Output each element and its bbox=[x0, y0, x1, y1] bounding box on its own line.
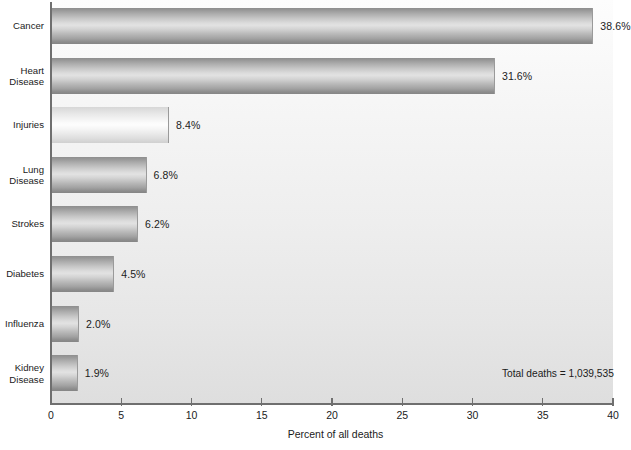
bar-value-label: 1.9% bbox=[85, 367, 109, 379]
x-axis-tick-label: 40 bbox=[607, 409, 619, 421]
x-axis-tick bbox=[402, 398, 403, 406]
bar-row: Influenza2.0% bbox=[0, 306, 631, 342]
category-label: Cancer bbox=[0, 20, 44, 32]
bar bbox=[51, 8, 593, 44]
bar-row: Lung Disease6.8% bbox=[0, 157, 631, 193]
category-label: Injuries bbox=[0, 119, 44, 131]
bar bbox=[51, 306, 79, 342]
x-axis-tick bbox=[191, 398, 192, 406]
bar-row: Heart Disease31.6% bbox=[0, 58, 631, 94]
category-label: Strokes bbox=[0, 219, 44, 231]
bar-row: Strokes6.2% bbox=[0, 206, 631, 242]
bar bbox=[51, 355, 78, 391]
category-label: Kidney Disease bbox=[0, 362, 44, 385]
x-axis-title-text: Percent of all deaths bbox=[288, 428, 384, 440]
category-label: Influenza bbox=[0, 318, 44, 330]
x-axis-tick-label: 0 bbox=[48, 409, 54, 421]
x-axis-tick bbox=[261, 398, 262, 406]
bar-value-label: 2.0% bbox=[86, 318, 110, 330]
bar-value-label: 6.8% bbox=[154, 169, 178, 181]
bar-row: Injuries8.4% bbox=[0, 107, 631, 143]
bar bbox=[51, 58, 495, 94]
x-axis-title: Percent of all deaths bbox=[0, 428, 631, 440]
bar-value-label: 8.4% bbox=[176, 119, 200, 131]
bar-value-label: 4.5% bbox=[121, 268, 145, 280]
y-axis-line bbox=[50, 2, 52, 404]
x-axis-tick-label: 20 bbox=[326, 409, 338, 421]
x-axis-tick-label: 15 bbox=[256, 409, 268, 421]
bar bbox=[51, 157, 147, 193]
x-axis-tick bbox=[612, 398, 613, 406]
total-deaths-annotation: Total deaths = 1,039,535 bbox=[502, 368, 614, 379]
x-axis-tick bbox=[121, 398, 122, 406]
bar-value-label: 6.2% bbox=[145, 218, 169, 230]
category-label: Diabetes bbox=[0, 268, 44, 280]
x-axis-tick-label: 35 bbox=[537, 409, 549, 421]
x-axis-tick-label: 30 bbox=[467, 409, 479, 421]
x-axis-tick-label: 5 bbox=[118, 409, 124, 421]
bar-value-label: 38.6% bbox=[600, 20, 630, 32]
x-axis-tick bbox=[542, 398, 543, 406]
category-label: Lung Disease bbox=[0, 163, 44, 186]
x-axis-tick-label: 10 bbox=[186, 409, 198, 421]
bar bbox=[51, 206, 138, 242]
x-axis-tick-label: 25 bbox=[396, 409, 408, 421]
bar-chart: Cancer38.6%Heart Disease31.6%Injuries8.4… bbox=[0, 0, 631, 450]
bar-row: Diabetes4.5% bbox=[0, 256, 631, 292]
x-axis-tick bbox=[331, 398, 332, 406]
bar-row: Cancer38.6% bbox=[0, 8, 631, 44]
bar-value-label: 31.6% bbox=[502, 70, 532, 82]
bar bbox=[51, 256, 114, 292]
bar bbox=[51, 107, 169, 143]
x-axis-tick bbox=[472, 398, 473, 406]
category-label: Heart Disease bbox=[0, 64, 44, 87]
